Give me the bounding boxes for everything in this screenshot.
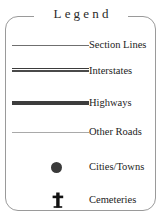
legend-row-interstates: Interstates	[9, 61, 155, 81]
section-lines-symbol	[9, 35, 89, 55]
filled-circle-icon	[51, 162, 62, 173]
legend-title: Legend	[0, 6, 162, 21]
legend-row-highways: Highways	[9, 93, 155, 113]
legend-label-cities-towns: Cities/Towns	[89, 157, 155, 177]
legend-label-highways: Highways	[89, 93, 155, 113]
cemeteries-symbol	[9, 190, 89, 210]
double-line-icon	[12, 68, 89, 74]
cross-icon	[49, 191, 67, 209]
legend-label-interstates: Interstates	[89, 61, 155, 81]
legend-label-other-roads: Other Roads	[89, 122, 155, 142]
legend-row-section-lines: Section Lines	[9, 35, 155, 55]
thick-line-icon	[12, 101, 89, 105]
legend-row-cities-towns: Cities/Towns	[9, 157, 155, 177]
other-roads-symbol	[9, 122, 89, 142]
legend-label-section-lines: Section Lines	[89, 35, 155, 55]
interstates-symbol	[9, 61, 89, 81]
cities-towns-symbol	[9, 157, 89, 177]
legend-label-cemeteries: Cemeteries	[89, 190, 155, 210]
legend-row-cemeteries: Cemeteries	[9, 190, 155, 210]
map-legend-panel: Legend Section Lines Interstates Highway…	[0, 0, 162, 218]
legend-row-other-roads: Other Roads	[9, 122, 155, 142]
interstate-line-bottom	[12, 70, 89, 72]
hairline-icon	[12, 132, 89, 133]
thin-line-icon	[12, 45, 89, 46]
highways-symbol	[9, 93, 89, 113]
